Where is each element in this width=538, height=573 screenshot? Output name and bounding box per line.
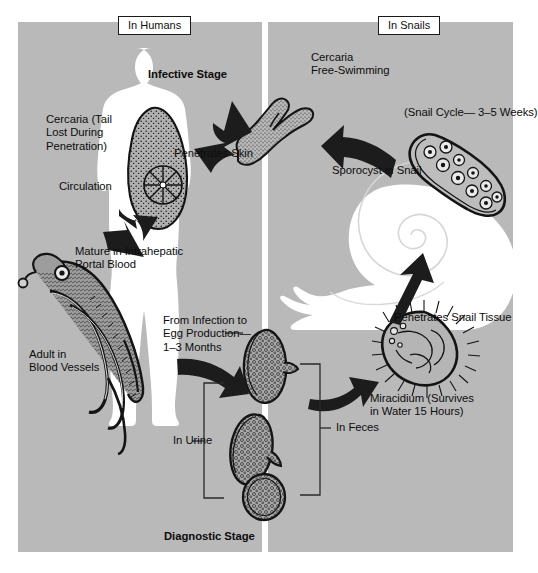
panel-title-in-humans: In Humans bbox=[118, 16, 191, 35]
label-sporocyst-in-snail: Sporocyst in Snail bbox=[332, 164, 422, 177]
panel-in-snails bbox=[268, 22, 513, 552]
label-in-urine: In Urine bbox=[173, 434, 212, 447]
label-infection-to-egg-production: From Infection to Egg Production— 1–3 Mo… bbox=[163, 314, 251, 354]
label-penetrates-snail-tissue: Penetrates Snail Tissue bbox=[394, 311, 512, 324]
label-infective-stage: Infective Stage bbox=[148, 68, 227, 81]
label-in-feces: In Feces bbox=[336, 421, 379, 434]
label-adult-blood-vessels: Adult in Blood Vessels bbox=[29, 348, 99, 375]
label-mature-portal-blood: Mature in Intrahepatic Portal Blood bbox=[75, 245, 183, 272]
panel-in-humans bbox=[18, 22, 262, 552]
label-penetrates-skin: Penetrates Skin bbox=[174, 147, 253, 160]
panel-title-in-snails: In Snails bbox=[378, 16, 440, 35]
label-miracidium: Miracidium (Survives in Water 15 Hours) bbox=[370, 392, 474, 419]
label-cercaria-tail-lost: Cercaria (Tail Lost During Penetration) bbox=[46, 113, 112, 153]
label-cercaria-free-swimming: Cercaria Free-Swimming bbox=[311, 51, 389, 78]
label-snail-cycle: (Snail Cycle— 3–5 Weeks) bbox=[404, 106, 538, 119]
label-circulation: Circulation bbox=[59, 180, 112, 193]
label-diagnostic-stage: Diagnostic Stage bbox=[164, 530, 255, 543]
